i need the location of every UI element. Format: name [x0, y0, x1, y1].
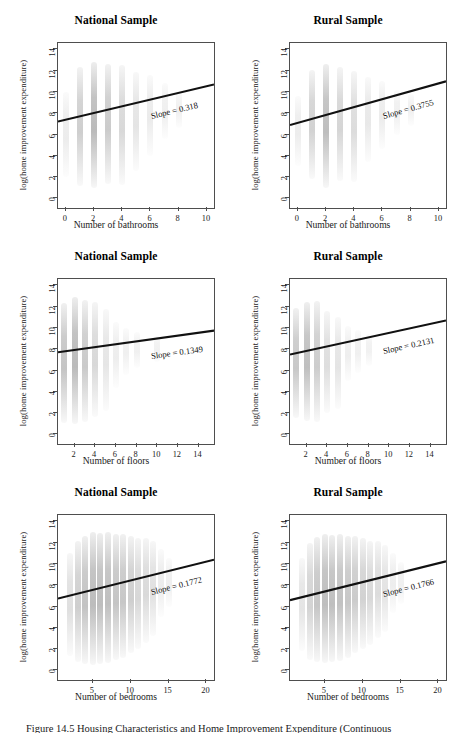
regression-line: [58, 279, 214, 444]
y-tick-label: 4: [281, 627, 289, 631]
regression-line: [58, 43, 214, 208]
y-tick-label: 2: [281, 176, 289, 180]
y-tick-label: 8: [49, 348, 57, 352]
y-tick-label: 14: [49, 520, 57, 528]
y-tick-label: 6: [281, 606, 289, 610]
regression-line: [290, 279, 446, 444]
plot-area: [289, 42, 447, 209]
y-tick-label: 8: [281, 584, 289, 588]
panel-title: Rural Sample: [232, 486, 464, 498]
x-tick-mark: [92, 679, 93, 683]
plot-area: [57, 42, 215, 209]
x-tick-mark: [368, 443, 369, 447]
x-axis-label: Number of bathrooms: [0, 219, 232, 230]
y-tick-label: 10: [281, 563, 289, 571]
y-axis: 02468101214: [44, 278, 57, 443]
plot-area: [289, 278, 447, 445]
x-tick-mark: [206, 207, 207, 211]
x-tick-mark: [115, 443, 116, 447]
panel-title: Rural Sample: [232, 250, 464, 262]
plot-area: [289, 514, 447, 681]
y-tick-label: 4: [281, 391, 289, 395]
y-tick-label: 6: [281, 134, 289, 138]
x-axis-label: Number of bathrooms: [232, 219, 464, 230]
x-tick-mark: [306, 443, 307, 447]
panel-title: National Sample: [0, 486, 232, 498]
y-tick-label: 0: [281, 197, 289, 201]
chart-panel: National SampleSlope = 0.177202468101214…: [0, 472, 232, 708]
x-tick-mark: [156, 443, 157, 447]
chart-panel: Rural SampleSlope = 0.375502468101214024…: [232, 0, 464, 236]
y-axis-label: log(home improvement expenditure): [250, 59, 260, 190]
y-axis-label-wrap: log(home improvement expenditure): [16, 42, 29, 207]
chart-panel: Rural SampleSlope = 0.176602468101214510…: [232, 472, 464, 708]
y-tick-label: 6: [49, 134, 57, 138]
x-tick-mark: [430, 443, 431, 447]
x-tick-mark: [326, 443, 327, 447]
x-tick-mark: [347, 443, 348, 447]
y-tick-label: 12: [49, 70, 57, 78]
x-axis-label: Number of floors: [232, 455, 464, 466]
figure-container: National SampleSlope = 0.318024681012140…: [0, 0, 465, 733]
panel-title: National Sample: [0, 14, 232, 26]
y-axis-label-wrap: log(home improvement expenditure): [248, 514, 261, 679]
y-axis-label: log(home improvement expenditure): [18, 531, 28, 662]
x-axis-label: Number of floors: [0, 455, 232, 466]
x-tick-mark: [94, 443, 95, 447]
x-tick-mark: [121, 207, 122, 211]
y-axis: 02468101214: [44, 514, 57, 679]
y-tick-label: 12: [49, 542, 57, 550]
y-tick-label: 4: [49, 155, 57, 159]
y-tick-label: 2: [49, 648, 57, 652]
plot-area: [57, 514, 215, 681]
regression-line: [290, 43, 446, 208]
y-axis-label-wrap: log(home improvement expenditure): [248, 42, 261, 207]
y-tick-label: 2: [281, 412, 289, 416]
y-tick-label: 0: [49, 197, 57, 201]
x-tick-mark: [168, 679, 169, 683]
y-tick-label: 8: [281, 348, 289, 352]
y-axis-label: log(home improvement expenditure): [250, 295, 260, 426]
x-tick-mark: [410, 207, 411, 211]
y-tick-label: 12: [49, 306, 57, 314]
y-axis-label: log(home improvement expenditure): [18, 295, 28, 426]
chart-panel: National SampleSlope = 0.134902468101214…: [0, 236, 232, 472]
x-tick-mark: [325, 207, 326, 211]
y-tick-label: 6: [49, 606, 57, 610]
y-tick-label: 4: [281, 155, 289, 159]
y-tick-label: 12: [281, 542, 289, 550]
y-tick-label: 0: [49, 433, 57, 437]
y-axis: 02468101214: [276, 278, 289, 443]
y-axis: 02468101214: [276, 42, 289, 207]
y-tick-label: 12: [281, 70, 289, 78]
plot-area: [57, 278, 215, 445]
panel-grid: National SampleSlope = 0.318024681012140…: [0, 0, 465, 708]
x-axis-label: Number of bedrooms: [0, 691, 232, 702]
x-tick-mark: [149, 207, 150, 211]
regression-line: [58, 515, 214, 680]
y-tick-label: 2: [49, 412, 57, 416]
y-tick-label: 10: [281, 327, 289, 335]
y-axis-label-wrap: log(home improvement expenditure): [248, 278, 261, 443]
y-axis-label: log(home improvement expenditure): [18, 59, 28, 190]
y-axis: 02468101214: [276, 514, 289, 679]
y-tick-label: 4: [49, 627, 57, 631]
y-tick-label: 6: [281, 370, 289, 374]
y-tick-label: 14: [281, 48, 289, 56]
panel-title: Rural Sample: [232, 14, 464, 26]
x-tick-mark: [297, 207, 298, 211]
y-tick-label: 4: [49, 391, 57, 395]
y-tick-label: 14: [49, 284, 57, 292]
y-tick-label: 0: [49, 669, 57, 673]
y-tick-label: 10: [49, 563, 57, 571]
y-tick-label: 2: [49, 176, 57, 180]
x-tick-mark: [178, 207, 179, 211]
x-tick-mark: [74, 443, 75, 447]
x-tick-mark: [130, 679, 131, 683]
x-tick-mark: [205, 679, 206, 683]
x-tick-mark: [438, 207, 439, 211]
figure-caption: Figure 14.5 Housing Characteristics and …: [26, 722, 446, 733]
y-tick-label: 0: [281, 669, 289, 673]
x-tick-mark: [400, 679, 401, 683]
x-tick-mark: [177, 443, 178, 447]
